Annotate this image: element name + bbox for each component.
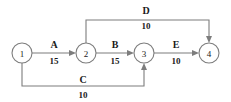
edge-e-duration: 10 [172,56,182,66]
edge-c-duration: 10 [79,90,89,100]
network-diagram-canvas: 1 2 3 4 A 15 B 15 C 10 D 10 E 10 [0,0,231,102]
edge-b-arrowhead [127,50,134,56]
node-4[interactable]: 4 [199,43,219,63]
edge-a-name: A [50,39,58,50]
edge-d-duration: 10 [142,21,152,31]
node-3-label: 3 [142,49,147,59]
node-1[interactable]: 1 [12,43,32,63]
node-2[interactable]: 2 [76,43,96,63]
node-3[interactable]: 3 [134,43,154,63]
edge-d-arrowhead [206,36,212,43]
edge-c-name: C [79,74,86,85]
edge-e-name: E [173,39,180,50]
edge-c-arrowhead [141,63,147,70]
edge-d-name: D [142,5,149,16]
edge-e-arrowhead [192,50,199,56]
node-4-label: 4 [207,49,212,59]
edge-a-arrowhead [69,50,76,56]
node-1-label: 1 [20,49,25,59]
edge-b-duration: 15 [111,56,121,66]
network-diagram: 1 2 3 4 A 15 B 15 C 10 D 10 E 10 [0,0,231,102]
edge-b-name: B [112,39,119,50]
node-2-label: 2 [84,49,89,59]
edge-a-duration: 15 [50,56,60,66]
